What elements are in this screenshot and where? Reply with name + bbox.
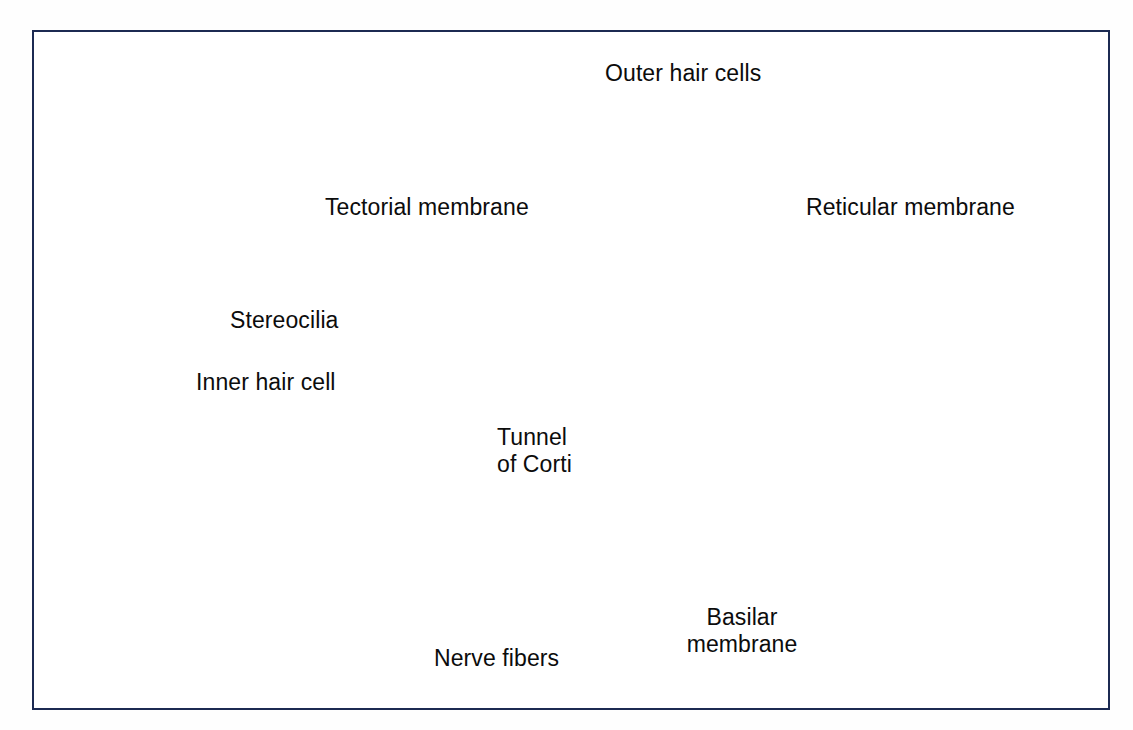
label-nerve-fibers: Nerve fibers <box>434 645 559 672</box>
label-outer-hair-cells: Outer hair cells <box>605 60 761 87</box>
label-tunnel-of-corti: Tunnel of Corti <box>497 424 627 478</box>
label-tunnel-of-corti-line1: Tunnel <box>497 424 627 451</box>
label-tectorial-membrane: Tectorial membrane <box>325 194 529 221</box>
label-stereocilia: Stereocilia <box>230 307 339 334</box>
label-inner-hair-cell: Inner hair cell <box>196 369 336 396</box>
figure-canvas: Outer hair cells Tectorial membrane Reti… <box>0 0 1133 730</box>
label-basilar-membrane: Basilar membrane <box>653 604 831 658</box>
label-basilar-membrane-line2: membrane <box>653 631 831 658</box>
label-basilar-membrane-line1: Basilar <box>653 604 831 631</box>
label-reticular-membrane: Reticular membrane <box>806 194 1015 221</box>
label-tunnel-of-corti-line2: of Corti <box>497 451 627 478</box>
figure-border <box>32 30 1110 710</box>
